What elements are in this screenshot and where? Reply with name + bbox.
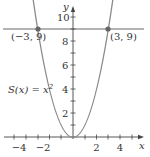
point-label-right: (3, 9) (110, 31, 137, 42)
y-tick-label-2: 2 (62, 108, 68, 119)
y-tick-label-4: 4 (62, 84, 68, 95)
y-axis-arrow-icon (71, 6, 75, 12)
x-tick-label-neg4: −4 (12, 142, 27, 153)
x-tick-label-4: 4 (117, 142, 123, 153)
function-label: S(x) = x2 (8, 83, 54, 95)
y-tick-label-10: 10 (57, 12, 70, 23)
y-tick-label-6: 6 (62, 60, 68, 71)
x-axis-label: x (139, 140, 145, 151)
x-axis-arrow-icon (138, 135, 144, 139)
parabola-chart: (−3, 9) (3, 9) S(x) = x2 10 8 6 4 2 −4 −… (0, 0, 150, 157)
y-axis-label: y (62, 1, 69, 12)
function-label-exponent: 2 (48, 83, 54, 91)
x-tick-label-neg2: −2 (36, 142, 51, 153)
y-tick-label-8: 8 (62, 36, 68, 47)
x-tick-label-2: 2 (93, 142, 99, 153)
point-label-left: (−3, 9) (11, 31, 46, 42)
